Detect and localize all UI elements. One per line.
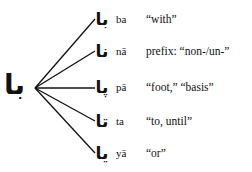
transliteration: ba — [116, 13, 146, 25]
branch-row: با ba “with” — [92, 8, 177, 30]
branch-row: یا yā “or” — [92, 142, 166, 164]
branch-row: نا nā prefix: “non-/un-” — [92, 40, 229, 62]
arabic-word: با — [92, 9, 112, 29]
gloss: “foot,” “basis” — [146, 81, 214, 93]
gloss: “to, until” — [146, 115, 192, 127]
arabic-word: یا — [92, 143, 112, 163]
transliteration: yā — [116, 147, 146, 159]
gloss: prefix: “non-/un-” — [146, 45, 229, 57]
gloss: “with” — [146, 13, 177, 25]
branch-row: تا ta “to, until” — [92, 110, 192, 132]
transliteration: nā — [116, 45, 146, 57]
root-word: با — [4, 70, 25, 100]
branch-row: پا pā “foot,” “basis” — [92, 76, 214, 98]
gloss: “or” — [146, 147, 166, 159]
transliteration: pā — [116, 81, 146, 93]
transliteration: ta — [116, 115, 146, 127]
arabic-word: پا — [92, 77, 112, 97]
arabic-word: تا — [92, 111, 112, 131]
arabic-word: نا — [92, 41, 112, 61]
